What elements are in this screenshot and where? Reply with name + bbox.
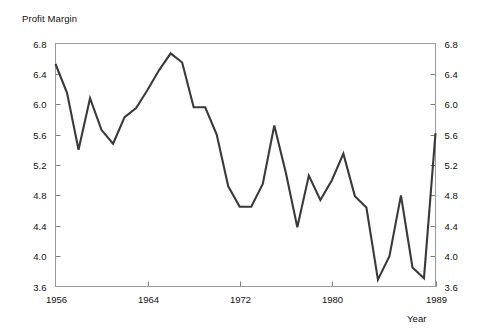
- y-axis-tick-label-left: 5.2: [33, 160, 46, 171]
- y-axis-tick-label-left: 4.4: [33, 221, 46, 232]
- y-axis-left-labels: 6.86.46.05.65.24.84.44.03.6: [33, 39, 46, 293]
- x-axis-tick-label: 1972: [230, 294, 251, 305]
- tick-marks-layer: [56, 75, 437, 287]
- y-axis-tick-label-right: 6.0: [445, 99, 458, 110]
- y-axis-tick-label-right: 4.8: [445, 190, 458, 201]
- x-axis-tick-label: 1964: [138, 294, 159, 305]
- plot-area-border: [56, 44, 436, 287]
- x-axis-tick-label: 1956: [46, 294, 67, 305]
- y-axis-tick-label-left: 3.6: [33, 282, 46, 293]
- y-axis-tick-label-right: 5.6: [445, 130, 458, 141]
- x-axis-labels: 19561964197219801989: [46, 294, 447, 305]
- y-axis-tick-label-right: 6.4: [445, 69, 458, 80]
- y-axis-tick-label-right: 6.8: [445, 39, 458, 50]
- y-axis-tick-label-right: 4.0: [445, 251, 458, 262]
- y-axis-tick-label-left: 6.4: [33, 69, 46, 80]
- y-axis-tick-label-left: 4.8: [33, 190, 46, 201]
- profit-margin-line: [56, 53, 436, 279]
- x-axis-tick-label: 1980: [322, 294, 343, 305]
- x-axis-tick-label: 1989: [426, 294, 447, 305]
- y-axis-tick-label-right: 5.2: [445, 160, 458, 171]
- y-axis-tick-label-left: 6.0: [33, 99, 46, 110]
- y-axis-right-labels: 6.86.46.05.65.24.84.44.03.6: [445, 39, 458, 293]
- y-axis-tick-label-right: 3.6: [445, 282, 458, 293]
- y-axis-tick-label-right: 4.4: [445, 221, 458, 232]
- chart-canvas: 6.86.46.05.65.24.84.44.03.6 6.86.46.05.6…: [0, 0, 487, 336]
- y-axis-tick-label-left: 4.0: [33, 251, 46, 262]
- y-axis-tick-label-left: 6.8: [33, 39, 46, 50]
- profit-margin-chart: Profit Margin Year 6.86.46.05.65.24.84.4…: [0, 0, 487, 336]
- y-axis-tick-label-left: 5.6: [33, 130, 46, 141]
